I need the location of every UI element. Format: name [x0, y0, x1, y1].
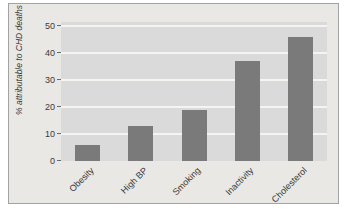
y-tick-mark-0 — [57, 160, 61, 161]
x-tick-label-obesity: Obesity — [68, 166, 96, 194]
y-tick-label-10: 10 — [29, 130, 55, 139]
y-tick-mark-40 — [57, 52, 61, 53]
y-tick-mark-20 — [57, 106, 61, 107]
chart-panel: % attributable to CHD deaths 01020304050… — [8, 3, 339, 204]
gridline-50 — [61, 25, 327, 27]
bar-high-bp — [128, 126, 153, 161]
bar-inactivity — [235, 61, 260, 161]
y-axis-label: % attributable to CHD deaths — [14, 5, 24, 115]
x-tick-label-inactivity: Inactivity — [224, 166, 255, 197]
bar-cholesterol — [288, 37, 313, 161]
y-tick-mark-30 — [57, 79, 61, 80]
x-tick-label-smoking: Smoking — [171, 166, 202, 197]
x-tick-label-cholesterol: Cholesterol — [270, 166, 309, 205]
figure-page: % attributable to CHD deaths 01020304050… — [0, 0, 346, 214]
bar-smoking — [182, 110, 207, 161]
plot-area — [61, 22, 327, 161]
bar-obesity — [75, 145, 100, 161]
y-tick-mark-50 — [57, 25, 61, 26]
y-tick-label-50: 50 — [29, 22, 55, 31]
y-tick-mark-10 — [57, 133, 61, 134]
x-tick-label-high-bp: High BP — [119, 166, 149, 196]
y-tick-label-0: 0 — [29, 157, 55, 166]
y-tick-label-20: 20 — [29, 103, 55, 112]
y-tick-label-30: 30 — [29, 76, 55, 85]
y-tick-label-40: 40 — [29, 49, 55, 58]
